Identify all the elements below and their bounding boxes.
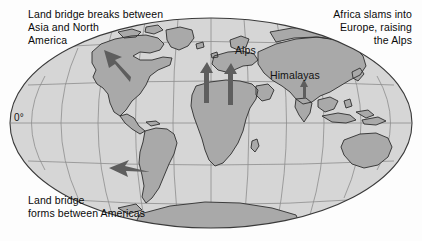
map-label-equator: 0° bbox=[14, 112, 24, 123]
annotation-land-bridge-breaks: Land bridge breaks between Asia and Nort… bbox=[28, 8, 163, 48]
annotation-africa-slams: Africa slams into Europe, raising the Al… bbox=[333, 8, 412, 48]
annotation-land-bridge-forms: Land bridge forms between Americas bbox=[28, 194, 145, 220]
map-label-alps: Alps bbox=[235, 44, 256, 56]
world-map-figure: Land bridge breaks between Asia and Nort… bbox=[0, 0, 422, 241]
map-label-himalayas: Himalayas bbox=[270, 69, 320, 81]
